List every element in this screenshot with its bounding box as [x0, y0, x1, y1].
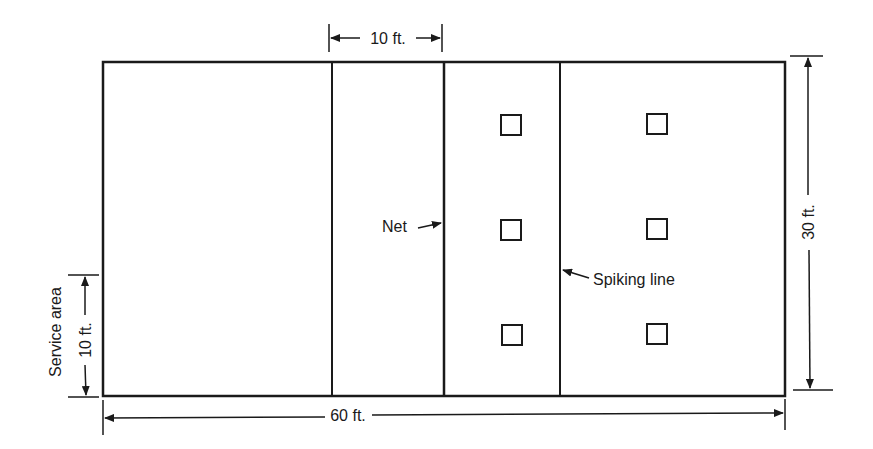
- top-dimension-label: 10 ft.: [370, 30, 406, 47]
- net-label: Net: [382, 218, 407, 235]
- player-position: [647, 324, 667, 344]
- spiking-line-arrow: [563, 270, 589, 278]
- bottom-dimension-label: 60 ft.: [330, 407, 366, 424]
- volleyball-court-diagram: 10 ft. 30 ft. 60 ft. 10 ft. Service area…: [0, 0, 873, 449]
- service-area-label: Service area: [47, 287, 64, 377]
- service-area-size-label: 10 ft.: [77, 322, 94, 358]
- player-positions: [501, 114, 667, 345]
- player-position: [647, 219, 667, 239]
- right-dimension-label: 30 ft.: [800, 204, 817, 240]
- spiking-line-label: Spiking line: [593, 271, 675, 288]
- player-position: [647, 114, 667, 134]
- net-arrow: [418, 223, 441, 228]
- player-position: [501, 220, 521, 240]
- player-position: [501, 115, 521, 135]
- player-position: [502, 325, 522, 345]
- bottom-dimension: [103, 399, 785, 435]
